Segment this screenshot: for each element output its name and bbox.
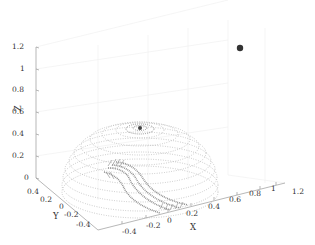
z-tick-label: 0.8: [12, 86, 24, 94]
x-tick-label: 0.6: [229, 196, 241, 204]
x-tick-label: -0.4: [122, 228, 136, 236]
x-tick-label: -0.2: [146, 222, 160, 230]
x-tick-label: 0.4: [208, 203, 220, 211]
z-tick-label: 0.2: [12, 152, 24, 160]
axes-lines: [36, 47, 285, 230]
z-tick-label: 0.4: [12, 130, 24, 138]
z-tick-label: 1.2: [12, 43, 24, 51]
y-tick-label: 0.2: [40, 196, 52, 204]
y-tick-label: 0.4: [27, 188, 39, 196]
x-tick-label: 0.2: [186, 210, 198, 218]
y-axis-label: Y: [53, 212, 59, 221]
target-point: [237, 45, 243, 51]
z-tick-label: 0: [24, 174, 29, 182]
z-axis-label: Z: [14, 105, 23, 111]
spiral-trajectories: [104, 162, 188, 213]
x-tick-label: 0.8: [249, 190, 261, 198]
hemisphere-apex: [138, 126, 142, 130]
x-axis-label: X: [190, 223, 196, 232]
y-tick-label: -0.2: [64, 211, 78, 219]
x-tick-label: 0: [167, 217, 172, 225]
3d-plot: [0, 0, 315, 245]
y-tick-label: -0.4: [76, 221, 90, 229]
z-tick-label: 1: [20, 65, 25, 73]
x-tick-label: 1: [271, 185, 276, 193]
x-tick-label: 1.2: [292, 188, 304, 196]
grid-lines: [36, 0, 285, 200]
